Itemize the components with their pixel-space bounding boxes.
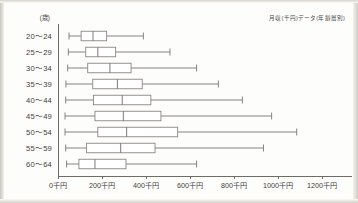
box-iqr [79, 159, 126, 169]
box-iqr [81, 31, 107, 41]
category-label: 30〜34 [26, 64, 52, 73]
box-series [65, 31, 297, 169]
boxplot-svg: 月収(千円)データ(年齢層別) (歳) 20〜2425〜2930〜3435〜39… [0, 0, 358, 203]
category-label: 20〜24 [26, 32, 52, 41]
x-axis-tick-label: 1000千円 [263, 181, 293, 190]
box-iqr [95, 111, 161, 121]
category-label: 60〜64 [26, 160, 52, 169]
x-axis-tick-label: 200千円 [89, 181, 115, 190]
category-label: 35〜39 [26, 80, 52, 89]
boxplot-row [66, 79, 218, 89]
box-iqr [88, 63, 131, 73]
y-unit-label: (歳) [40, 13, 50, 22]
boxplot-row [69, 31, 143, 41]
x-axis-tick-label: 1200千円 [307, 181, 337, 190]
category-label: 40〜44 [26, 96, 52, 105]
category-label: 55〜59 [26, 144, 52, 153]
box-iqr [98, 127, 178, 137]
boxplot-chart: 月収(千円)データ(年齢層別) (歳) 20〜2425〜2930〜3435〜39… [0, 0, 358, 203]
x-axis-tick-label: 600千円 [177, 181, 203, 190]
boxplot-row [66, 95, 243, 105]
category-labels: 20〜2425〜2930〜3435〜3940〜4445〜4950〜5455〜59… [26, 32, 52, 169]
boxplot-row [68, 47, 170, 57]
x-axis-tick-label: 0千円 [49, 181, 67, 190]
boxplot-row [65, 127, 297, 137]
category-label: 45〜49 [26, 112, 52, 121]
boxplot-row [67, 159, 197, 169]
category-label: 25〜29 [26, 48, 52, 57]
x-axis-tick-label: 800千円 [221, 181, 247, 190]
boxplot-row [65, 111, 272, 121]
x-axis-tick-label: 400千円 [133, 181, 159, 190]
boxplot-row [68, 63, 197, 73]
chart-title: 月収(千円)データ(年齢層別) [269, 14, 345, 22]
chart-screenshot: 月収(千円)データ(年齢層別) (歳) 20〜2425〜2930〜3435〜39… [0, 0, 358, 203]
boxplot-row [66, 143, 264, 153]
box-iqr [86, 47, 116, 57]
category-label: 50〜54 [26, 128, 52, 137]
